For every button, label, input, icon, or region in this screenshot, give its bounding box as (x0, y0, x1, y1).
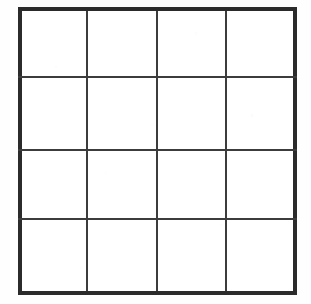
grid-cell-r3-c4[interactable] (226, 150, 295, 219)
grid-inner-horizontal-line-3 (18, 218, 297, 220)
grid-cell-r1-c1[interactable] (20, 9, 87, 77)
grid-inner-vertical-line-3 (225, 7, 227, 295)
grid-cell-r2-c1[interactable] (20, 77, 87, 150)
grid-outer-vertical-line-0 (18, 7, 22, 295)
grid-cell-r3-c1[interactable] (20, 150, 87, 219)
grid-figure (0, 0, 311, 304)
grid-cell-r2-c2[interactable] (87, 77, 157, 150)
grid-inner-vertical-line-1 (86, 7, 88, 295)
grid-inner-horizontal-line-2 (18, 149, 297, 151)
grid-outer-vertical-line-4 (293, 7, 297, 295)
grid-cell-r4-c4[interactable] (226, 219, 295, 293)
grid-cell-r1-c4[interactable] (226, 9, 295, 77)
grid-cell-r4-c3[interactable] (157, 219, 226, 293)
grid-cell-r2-c3[interactable] (157, 77, 226, 150)
grid-inner-vertical-line-2 (156, 7, 158, 295)
grid-cell-r3-c2[interactable] (87, 150, 157, 219)
grid-cell-r1-c3[interactable] (157, 9, 226, 77)
grid-cell-r3-c3[interactable] (157, 150, 226, 219)
grid-outer-horizontal-line-4 (18, 291, 297, 295)
grid-cell-r4-c1[interactable] (20, 219, 87, 293)
grid-cell-r1-c2[interactable] (87, 9, 157, 77)
image-canvas (0, 0, 311, 304)
grid-cell-r4-c2[interactable] (87, 219, 157, 293)
grid-outer-horizontal-line-0 (18, 7, 297, 11)
grid-inner-horizontal-line-1 (18, 76, 297, 78)
grid-cell-r2-c4[interactable] (226, 77, 295, 150)
